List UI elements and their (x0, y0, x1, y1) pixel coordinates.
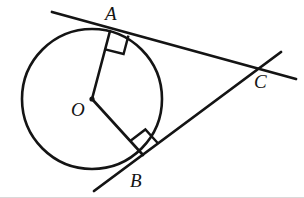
center-point-o (89, 96, 94, 101)
label-point-b: B (130, 171, 142, 190)
radius-o-a (92, 31, 110, 99)
geometry-figure: A O B C (0, 0, 304, 198)
radius-o-b (92, 99, 143, 155)
bottom-divider (0, 197, 304, 198)
label-point-a: A (105, 4, 117, 23)
geometry-canvas (0, 0, 304, 198)
label-point-o: O (71, 100, 85, 119)
label-point-c: C (254, 72, 267, 91)
tangent-line-b-c (94, 52, 281, 191)
